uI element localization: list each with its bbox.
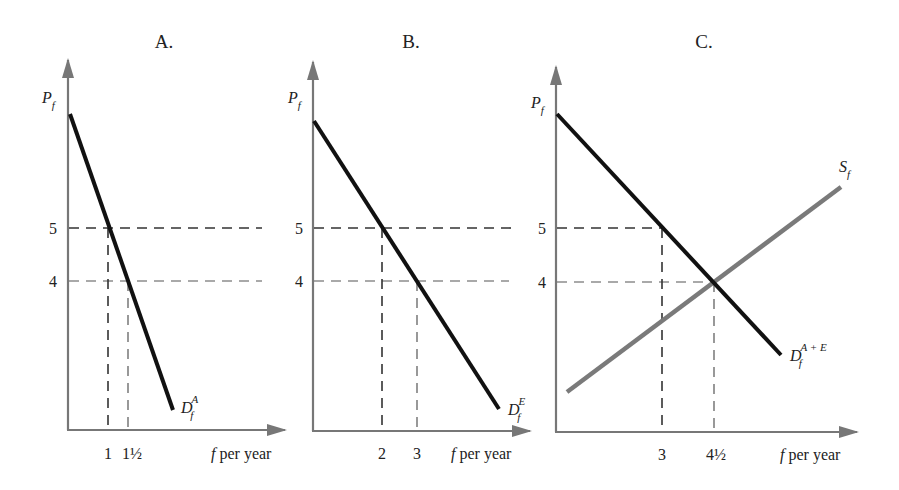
x-tick-1-5: 1½ bbox=[122, 445, 142, 462]
panel-c: C. Pf 5 4 Sf DA + Ef 3 4½ f per year bbox=[530, 31, 857, 464]
y-tick-4: 4 bbox=[49, 273, 57, 290]
y-tick-4: 4 bbox=[295, 273, 303, 290]
x-axis-label: f per year bbox=[211, 445, 272, 463]
x-tick-1: 1 bbox=[104, 445, 112, 462]
panel-a-title: A. bbox=[155, 31, 173, 52]
panel-c-title: C. bbox=[695, 31, 712, 52]
x-tick-4-5: 4½ bbox=[706, 446, 726, 463]
y-axis-label: Pf bbox=[41, 89, 57, 111]
x-axis-label: f per year bbox=[780, 446, 841, 464]
demand-label-c: DA + Ef bbox=[789, 341, 827, 369]
figure: A. Pf 5 4 DAf 1 1½ f per year B. Pf 5 4 … bbox=[0, 0, 899, 490]
demand-label-a: DAf bbox=[180, 393, 199, 421]
y-tick-5: 5 bbox=[538, 220, 546, 237]
x-tick-3: 3 bbox=[413, 445, 421, 462]
panel-a: A. Pf 5 4 DAf 1 1½ f per year bbox=[41, 31, 285, 463]
x-tick-2: 2 bbox=[378, 445, 386, 462]
y-axis-label: Pf bbox=[287, 89, 303, 111]
y-tick-5: 5 bbox=[49, 220, 57, 237]
x-tick-3: 3 bbox=[658, 446, 666, 463]
demand-curve-a bbox=[70, 114, 173, 410]
demand-curve-c bbox=[557, 114, 781, 355]
y-tick-4: 4 bbox=[538, 274, 546, 291]
y-tick-5: 5 bbox=[295, 220, 303, 237]
y-axis-label: Pf bbox=[530, 94, 546, 116]
supply-label: Sf bbox=[839, 158, 852, 180]
demand-label-b: DEf bbox=[507, 395, 526, 423]
x-axis-label: f per year bbox=[451, 445, 512, 463]
panel-b-title: B. bbox=[402, 31, 419, 52]
panel-b: B. Pf 5 4 DEf 2 3 f per year bbox=[287, 31, 530, 463]
demand-curve-b bbox=[314, 121, 499, 409]
